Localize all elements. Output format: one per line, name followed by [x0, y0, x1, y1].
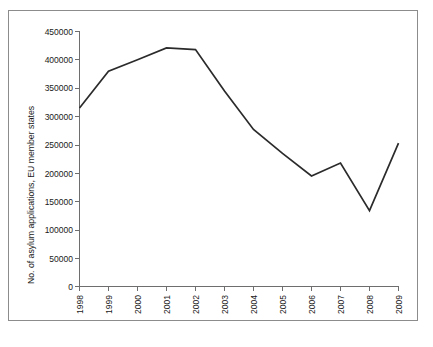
y-tick-label: 300000	[45, 112, 74, 122]
x-tick-label: 2004	[249, 295, 259, 314]
y-tick-label: 0	[68, 282, 73, 292]
y-axis-tick-labels: 450000 400000 350000 300000 250000 20000…	[45, 27, 74, 293]
x-tick-label: 2009	[394, 295, 404, 314]
caption-fragment	[10, 335, 310, 345]
x-axis-tick-marks	[80, 287, 399, 292]
x-tick-label: 2006	[307, 295, 317, 314]
y-tick-label: 450000	[45, 27, 74, 37]
y-tick-label: 350000	[45, 83, 74, 93]
x-tick-label: 2000	[133, 295, 143, 314]
x-tick-label: 2005	[278, 295, 288, 314]
x-tick-label: 1998	[75, 295, 85, 314]
y-tick-label: 200000	[45, 169, 74, 179]
y-tick-label: 400000	[45, 55, 74, 65]
chart-frame: 450000 400000 350000 300000 250000 20000…	[8, 10, 418, 321]
x-tick-label: 2007	[336, 295, 346, 314]
y-axis-title: No. of asylum applications, EU member st…	[26, 105, 36, 284]
x-axis-tick-labels: 1998 1999 2000 2001 2002 2003 2004 2005 …	[75, 295, 404, 314]
y-tick-label: 50000	[49, 254, 73, 264]
x-tick-label: 2002	[191, 295, 201, 314]
x-tick-label: 2008	[365, 295, 375, 314]
y-tick-label: 150000	[45, 197, 74, 207]
figure-canvas: 450000 400000 350000 300000 250000 20000…	[0, 0, 433, 347]
line-chart[interactable]: 450000 400000 350000 300000 250000 20000…	[9, 11, 417, 320]
y-tick-label: 250000	[45, 140, 74, 150]
y-axis-tick-marks	[75, 32, 80, 287]
x-tick-label: 2001	[162, 295, 172, 314]
y-tick-label: 100000	[45, 225, 74, 235]
x-tick-label: 1999	[104, 295, 114, 314]
x-tick-label: 2003	[220, 295, 230, 314]
data-series-line[interactable]	[80, 48, 399, 211]
